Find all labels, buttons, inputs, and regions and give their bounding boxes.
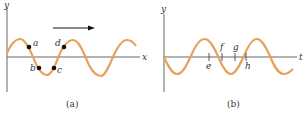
caption-b: (b): [227, 99, 240, 109]
t-axis-label-b: t: [299, 52, 303, 62]
tick-g-label: g: [233, 42, 239, 52]
arrow-right-icon: [88, 26, 95, 31]
point-c: [52, 66, 57, 71]
point-d-label: d: [55, 38, 61, 48]
figure: y x a b c d (a) y t e f g h (b): [0, 0, 307, 116]
panel-a: y x a b c d (a): [3, 0, 147, 109]
x-axis-label-a: x: [142, 52, 147, 62]
point-a-label: a: [33, 38, 38, 48]
panel-b: y t e f g h (b): [160, 4, 303, 109]
tick-f-label: f: [219, 42, 225, 52]
tick-e-label: e: [206, 61, 211, 71]
point-c-label: c: [57, 65, 62, 75]
caption-a: (a): [66, 99, 78, 109]
y-axis-label-a: y: [3, 0, 10, 10]
point-a: [27, 45, 32, 50]
point-b: [37, 66, 42, 71]
y-axis-label-b: y: [160, 4, 167, 14]
tick-h-label: h: [245, 61, 251, 71]
point-b-label: b: [30, 63, 36, 73]
point-d: [62, 45, 67, 50]
